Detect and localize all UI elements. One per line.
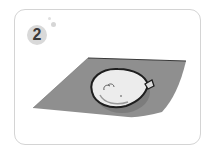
balloon-on-sheet-illustration (0, 0, 214, 155)
